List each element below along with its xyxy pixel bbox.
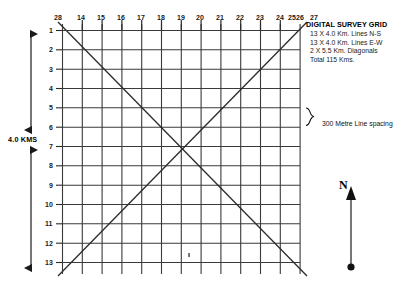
legend: DIGITAL SURVEY GRID 13 X 4.0 Km. Lines N… [306,20,402,64]
row-label-11: 11 [45,220,52,227]
row-label-7: 7 [49,143,53,150]
legend-title: DIGITAL SURVEY GRID [306,20,402,29]
diagonal-lines [58,22,307,276]
column-label-15: 15 [97,14,105,21]
north-arrow [346,186,356,271]
row-label-3: 3 [49,66,53,73]
legend-line-total: Total 115 Kms. [306,56,402,65]
grid-station-mark [188,253,190,257]
column-label-14: 14 [77,14,85,21]
row-label-13: 13 [45,259,53,266]
legend-line-ew: 13 X 4.0 Km. Lines E-W [306,39,402,48]
column-label-21: 21 [216,14,224,21]
column-label-16: 16 [117,14,125,21]
column-label-20: 20 [196,14,204,21]
survey-grid-diagram: 28 14 15 16 17 18 19 20 21 22 23 24 25 2… [0,0,402,292]
north-label: N [339,178,348,193]
top-axis-rule [62,20,300,31]
row-label-12: 12 [45,240,53,247]
column-label-25: 25 [288,14,296,21]
column-label-26: 26 [296,14,304,21]
legend-line-diagonals: 2 X 5.5 Km. Diagonals [306,47,402,56]
row-label-1: 1 [49,27,53,34]
grid-vertical-lines [63,24,301,274]
row-label-5: 5 [49,104,53,111]
scale-label: 4.0 KMS [8,135,37,144]
column-label-23: 23 [256,14,264,21]
row-label-4: 4 [49,85,53,92]
column-label-28: 28 [54,14,62,21]
row-tick-marks [56,31,62,263]
spacing-brace [306,108,314,126]
row-label-2: 2 [49,46,53,53]
line-spacing-label: 300 Metre Line spacing [322,120,393,127]
column-label-18: 18 [157,14,165,21]
column-label-17: 17 [137,14,145,21]
column-label-22: 22 [236,14,244,21]
row-label-8: 8 [49,162,53,169]
column-label-19: 19 [177,14,185,21]
row-label-10: 10 [45,201,53,208]
row-label-9: 9 [49,182,53,189]
legend-line-ns: 13 X 4.0 Km. Lines N-S [306,30,402,39]
column-label-24: 24 [276,14,284,21]
row-label-6: 6 [49,124,53,131]
